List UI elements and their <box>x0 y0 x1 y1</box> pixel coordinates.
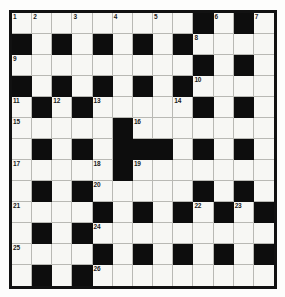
crossword-open-cell[interactable] <box>32 118 52 139</box>
crossword-open-cell[interactable]: 10 <box>193 76 213 97</box>
crossword-open-cell[interactable] <box>153 118 173 139</box>
crossword-open-cell[interactable] <box>113 55 133 76</box>
crossword-open-cell[interactable] <box>72 118 92 139</box>
crossword-open-cell[interactable]: 13 <box>93 97 113 118</box>
crossword-open-cell[interactable] <box>254 118 274 139</box>
crossword-open-cell[interactable] <box>153 76 173 97</box>
crossword-open-cell[interactable] <box>234 223 254 244</box>
crossword-open-cell[interactable]: 4 <box>113 13 133 34</box>
crossword-open-cell[interactable] <box>32 76 52 97</box>
crossword-open-cell[interactable]: 24 <box>93 223 113 244</box>
crossword-open-cell[interactable] <box>72 76 92 97</box>
crossword-open-cell[interactable] <box>214 265 234 286</box>
crossword-open-cell[interactable]: 22 <box>193 202 213 223</box>
crossword-open-cell[interactable]: 25 <box>12 244 32 265</box>
crossword-open-cell[interactable] <box>214 160 234 181</box>
crossword-open-cell[interactable] <box>93 13 113 34</box>
crossword-open-cell[interactable] <box>32 34 52 55</box>
crossword-open-cell[interactable] <box>173 55 193 76</box>
crossword-open-cell[interactable] <box>113 265 133 286</box>
crossword-open-cell[interactable] <box>12 181 32 202</box>
crossword-open-cell[interactable]: 2 <box>32 13 52 34</box>
crossword-open-cell[interactable]: 15 <box>12 118 32 139</box>
crossword-open-cell[interactable] <box>173 118 193 139</box>
crossword-open-cell[interactable] <box>133 13 153 34</box>
crossword-open-cell[interactable] <box>52 202 72 223</box>
crossword-open-cell[interactable] <box>173 139 193 160</box>
crossword-open-cell[interactable] <box>93 118 113 139</box>
crossword-open-cell[interactable] <box>254 139 274 160</box>
crossword-open-cell[interactable] <box>173 223 193 244</box>
crossword-open-cell[interactable] <box>12 139 32 160</box>
crossword-open-cell[interactable]: 9 <box>12 55 32 76</box>
crossword-open-cell[interactable] <box>93 55 113 76</box>
crossword-open-cell[interactable] <box>254 55 274 76</box>
crossword-open-cell[interactable] <box>193 223 213 244</box>
crossword-open-cell[interactable] <box>254 181 274 202</box>
crossword-open-cell[interactable] <box>113 244 133 265</box>
crossword-open-cell[interactable] <box>173 160 193 181</box>
crossword-open-cell[interactable] <box>113 97 133 118</box>
crossword-open-cell[interactable] <box>214 118 234 139</box>
crossword-open-cell[interactable] <box>153 265 173 286</box>
crossword-open-cell[interactable]: 18 <box>93 160 113 181</box>
crossword-open-cell[interactable] <box>133 55 153 76</box>
crossword-open-cell[interactable] <box>72 55 92 76</box>
crossword-open-cell[interactable] <box>234 34 254 55</box>
crossword-open-cell[interactable] <box>193 118 213 139</box>
crossword-open-cell[interactable] <box>214 223 234 244</box>
crossword-open-cell[interactable] <box>153 244 173 265</box>
crossword-open-cell[interactable] <box>214 34 234 55</box>
crossword-open-cell[interactable]: 17 <box>12 160 32 181</box>
crossword-open-cell[interactable] <box>113 202 133 223</box>
crossword-open-cell[interactable] <box>254 160 274 181</box>
crossword-open-cell[interactable] <box>193 160 213 181</box>
crossword-open-cell[interactable] <box>52 244 72 265</box>
crossword-open-cell[interactable] <box>153 223 173 244</box>
crossword-open-cell[interactable] <box>254 97 274 118</box>
crossword-open-cell[interactable] <box>214 76 234 97</box>
crossword-open-cell[interactable] <box>234 118 254 139</box>
crossword-open-cell[interactable]: 21 <box>12 202 32 223</box>
crossword-open-cell[interactable] <box>72 34 92 55</box>
crossword-open-cell[interactable] <box>254 76 274 97</box>
crossword-open-cell[interactable] <box>72 160 92 181</box>
crossword-open-cell[interactable]: 26 <box>93 265 113 286</box>
crossword-open-cell[interactable] <box>173 181 193 202</box>
crossword-open-cell[interactable] <box>234 265 254 286</box>
crossword-open-cell[interactable] <box>153 34 173 55</box>
crossword-open-cell[interactable]: 19 <box>133 160 153 181</box>
crossword-open-cell[interactable] <box>254 34 274 55</box>
crossword-open-cell[interactable] <box>12 223 32 244</box>
crossword-open-cell[interactable] <box>72 244 92 265</box>
crossword-open-cell[interactable]: 11 <box>12 97 32 118</box>
crossword-open-cell[interactable]: 6 <box>214 13 234 34</box>
crossword-open-cell[interactable] <box>234 244 254 265</box>
crossword-open-cell[interactable] <box>214 139 234 160</box>
crossword-open-cell[interactable] <box>234 76 254 97</box>
crossword-open-cell[interactable] <box>113 223 133 244</box>
crossword-open-cell[interactable]: 1 <box>12 13 32 34</box>
crossword-open-cell[interactable] <box>193 244 213 265</box>
crossword-open-cell[interactable] <box>214 97 234 118</box>
crossword-open-cell[interactable] <box>153 55 173 76</box>
crossword-open-cell[interactable] <box>153 97 173 118</box>
crossword-open-cell[interactable] <box>32 202 52 223</box>
crossword-open-cell[interactable] <box>133 97 153 118</box>
crossword-open-cell[interactable] <box>52 13 72 34</box>
crossword-open-cell[interactable]: 3 <box>72 13 92 34</box>
crossword-grid[interactable]: 1234567891011121314151617181920212223242… <box>9 10 277 289</box>
crossword-open-cell[interactable] <box>52 265 72 286</box>
crossword-open-cell[interactable] <box>254 265 274 286</box>
crossword-open-cell[interactable]: 7 <box>254 13 274 34</box>
crossword-open-cell[interactable]: 23 <box>234 202 254 223</box>
crossword-open-cell[interactable] <box>32 160 52 181</box>
crossword-open-cell[interactable] <box>93 139 113 160</box>
crossword-open-cell[interactable] <box>12 265 32 286</box>
crossword-open-cell[interactable] <box>214 181 234 202</box>
crossword-open-cell[interactable]: 5 <box>153 13 173 34</box>
crossword-open-cell[interactable]: 8 <box>193 34 213 55</box>
crossword-open-cell[interactable] <box>133 181 153 202</box>
crossword-open-cell[interactable] <box>52 139 72 160</box>
crossword-open-cell[interactable] <box>133 223 153 244</box>
